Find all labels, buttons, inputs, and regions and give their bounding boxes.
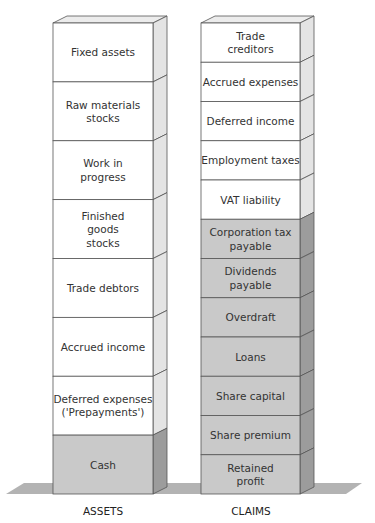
segment-label: payable [230, 240, 272, 252]
segment-overdraft: Overdraft [201, 291, 314, 337]
segment-side-face [300, 369, 314, 415]
segment-side-face [300, 134, 314, 180]
segment-side-face [300, 409, 314, 455]
segment-label: Raw materials [66, 99, 141, 111]
segment-label: Trade [235, 30, 265, 42]
segment-side-face [300, 330, 314, 376]
segment-label: stocks [86, 237, 119, 249]
segment-side-face [300, 16, 314, 62]
segment-label: goods [87, 223, 119, 235]
segment-label: Cash [90, 459, 116, 471]
segment-cash: Cash [53, 428, 167, 494]
segment-side-face [300, 448, 314, 494]
segment-label: payable [230, 279, 272, 291]
segment-label: Employment taxes [201, 154, 299, 166]
segment-work-in-progress: Work inprogress [53, 134, 167, 200]
segment-side-face [300, 173, 314, 219]
segment-deferred-expenses-prepayments: Deferred expenses('Prepayments') [53, 369, 167, 435]
segment-side-face [300, 252, 314, 298]
segment-dividends-payable: Dividendspayable [201, 252, 314, 298]
segment-side-face [300, 95, 314, 141]
segment-side-face [153, 75, 167, 141]
segment-label: creditors [227, 43, 273, 55]
segment-label: Fixed assets [71, 46, 135, 58]
segment-label: profit [237, 475, 265, 487]
segment-label: Share premium [210, 429, 291, 441]
segment-side-face [153, 428, 167, 494]
segment-trade-debtors: Trade debtors [53, 252, 167, 318]
segment-fixed-assets: Fixed assets [53, 16, 167, 82]
segment-label: Share capital [216, 390, 285, 402]
segment-side-face [300, 212, 314, 258]
segment-side-face [300, 55, 314, 101]
segment-side-face [153, 252, 167, 318]
segment-employment-taxes: Employment taxes [201, 134, 314, 180]
segment-label: Loans [235, 351, 266, 363]
segment-label: Accrued expenses [203, 76, 299, 88]
segment-corporation-tax-payable: Corporation taxpayable [201, 212, 314, 258]
segment-vat-liability: VAT liability [201, 173, 314, 219]
segment-label: Accrued income [61, 341, 145, 353]
segment-share-capital: Share capital [201, 369, 314, 415]
balance-sheet-diagram: Fixed assetsRaw materialsstocksWork inpr… [0, 0, 375, 523]
segment-label: stocks [86, 112, 119, 124]
segment-deferred-income: Deferred income [201, 95, 314, 141]
segment-side-face [300, 291, 314, 337]
segment-label: ('Prepayments') [62, 406, 145, 418]
segment-label: Trade debtors [66, 282, 139, 294]
segment-side-face [153, 310, 167, 376]
segment-side-face [153, 134, 167, 200]
segment-label: Deferred income [207, 115, 295, 127]
segment-label: Corporation tax [209, 226, 291, 238]
assets-label: ASSETS [83, 505, 124, 517]
segment-side-face [153, 369, 167, 435]
segment-label: Work in [83, 157, 123, 169]
segment-label: Finished [81, 210, 124, 222]
column-top-face [201, 16, 314, 23]
segment-accrued-income: Accrued income [53, 310, 167, 376]
claims-column: TradecreditorsAccrued expensesDeferred i… [201, 16, 314, 494]
segment-raw-materials-stocks: Raw materialsstocks [53, 75, 167, 141]
segment-label: Overdraft [225, 311, 275, 323]
segment-share-premium: Share premium [201, 409, 314, 455]
segment-label: Dividends [224, 265, 276, 277]
segment-side-face [153, 16, 167, 82]
segment-accrued-expenses: Accrued expenses [201, 55, 314, 101]
column-top-face [53, 16, 167, 23]
assets-column: Fixed assetsRaw materialsstocksWork inpr… [53, 16, 167, 494]
segment-label: progress [80, 171, 125, 183]
segment-label: VAT liability [220, 194, 281, 206]
segment-finished-goods-stocks: Finishedgoodsstocks [53, 193, 167, 259]
segment-trade-creditors: Tradecreditors [201, 16, 314, 62]
segment-label: Retained [227, 462, 274, 474]
claims-label: CLAIMS [231, 505, 271, 517]
segment-side-face [153, 193, 167, 259]
segment-retained-profit: Retainedprofit [201, 448, 314, 494]
segment-label: Deferred expenses [53, 393, 152, 405]
segment-loans: Loans [201, 330, 314, 376]
